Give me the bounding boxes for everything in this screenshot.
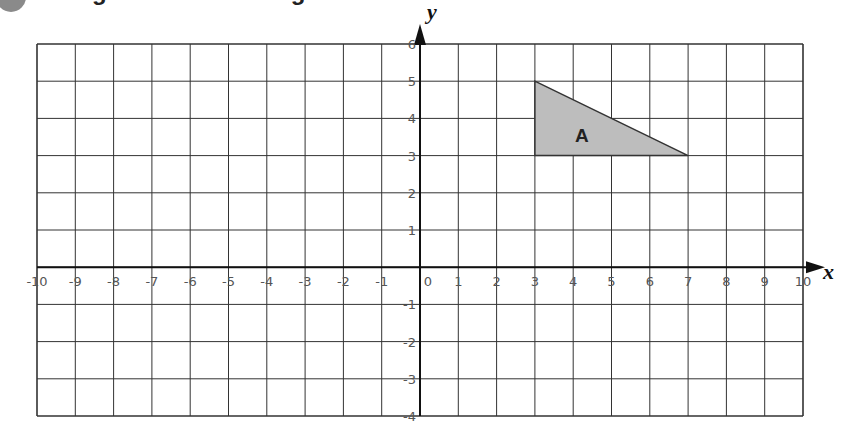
x-tick-label: 5 bbox=[607, 274, 615, 289]
axes bbox=[37, 24, 825, 416]
shape-label: A bbox=[575, 125, 589, 146]
x-tick-label: -6 bbox=[184, 274, 197, 289]
x-tick-label: -8 bbox=[107, 274, 120, 289]
x-tick-label: -10 bbox=[26, 274, 47, 289]
x-tick-label: 6 bbox=[646, 274, 654, 289]
y-tick-label: 3 bbox=[408, 149, 416, 164]
y-axis-label: y bbox=[424, 0, 437, 24]
y-tick-label: -4 bbox=[403, 409, 416, 424]
y-tick-label: 4 bbox=[408, 111, 416, 126]
x-tick-label: -7 bbox=[145, 274, 158, 289]
y-tick-label: 2 bbox=[408, 186, 416, 201]
y-tick-label: -1 bbox=[403, 297, 416, 312]
x-tick-label: 0 bbox=[424, 274, 432, 289]
x-tick-label: -5 bbox=[222, 274, 235, 289]
x-tick-label: 2 bbox=[492, 274, 500, 289]
x-tick-label: -4 bbox=[260, 274, 273, 289]
x-tick-label: -1 bbox=[375, 274, 388, 289]
x-axis-label: x bbox=[822, 259, 834, 284]
x-tick-label: 3 bbox=[531, 274, 539, 289]
y-tick-label: 1 bbox=[408, 223, 416, 238]
y-tick-label: 5 bbox=[408, 74, 416, 89]
x-tick-label: 8 bbox=[722, 274, 730, 289]
x-tick-label: -2 bbox=[337, 274, 350, 289]
x-tick-label: 7 bbox=[684, 274, 692, 289]
x-tick-label: 1 bbox=[454, 274, 462, 289]
y-tick-label: 6 bbox=[408, 37, 416, 52]
coordinate-grid: A -10-9-8-7-6-5-4-3-2-101234567891065432… bbox=[0, 0, 846, 434]
x-tick-label: -9 bbox=[69, 274, 82, 289]
y-tick-label: -3 bbox=[403, 372, 416, 387]
x-tick-label: 4 bbox=[569, 274, 577, 289]
x-tick-label: 9 bbox=[761, 274, 769, 289]
x-tick-label: 10 bbox=[795, 274, 812, 289]
y-tick-label: -2 bbox=[403, 335, 416, 350]
x-tick-label: -3 bbox=[299, 274, 312, 289]
